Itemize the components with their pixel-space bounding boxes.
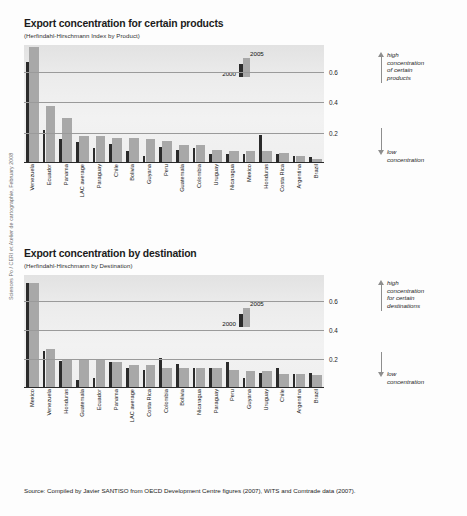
x-label-slot: Mexico <box>24 387 41 439</box>
annotation-high-destination: high concentration for certain destinati… <box>378 280 464 309</box>
x-axis-category-label: Bolivia <box>129 164 135 181</box>
chart-title: Export concentration by destination <box>24 248 324 259</box>
x-label-slot: Costa Rica <box>141 387 158 439</box>
x-axis-labels: MexicoVenezuelaHondurasGuatemalaEcuadorP… <box>24 387 324 439</box>
bar-2005 <box>129 365 139 387</box>
x-label-slot: Guatemala <box>174 162 191 214</box>
y-axis-tick-label: 0.6 <box>329 69 338 76</box>
x-label-slot: Guyana <box>141 162 158 214</box>
x-label-slot: Brazil <box>307 162 324 214</box>
x-axis-category-label: Chile <box>113 164 119 177</box>
x-axis-category-label: Peru <box>229 389 235 401</box>
x-axis-category-label: Panama <box>113 389 119 410</box>
bar-2000 <box>309 373 312 387</box>
bar-2005 <box>196 368 206 387</box>
x-axis-category-label: LAC average <box>129 389 135 422</box>
bar-group <box>174 45 191 162</box>
annotation-high-text: high concentration of certain products <box>387 51 464 81</box>
bar-2005 <box>162 368 172 387</box>
bar-2000 <box>109 362 112 387</box>
bar-2000 <box>93 378 96 387</box>
x-axis-category-label: Argentina <box>296 389 302 413</box>
x-label-slot: Colombia <box>191 162 208 214</box>
annotation-low-text: low concentration <box>387 370 464 385</box>
bar-2005 <box>279 374 289 387</box>
bar-group <box>107 45 124 162</box>
x-label-slot: Ecuador <box>41 162 58 214</box>
x-axis-category-label: Argentina <box>296 164 302 188</box>
annotation-low-destination: low concentration <box>378 352 464 385</box>
x-axis-category-label: Venezuela <box>29 164 35 191</box>
x-label-slot: Paraguay <box>91 162 108 214</box>
x-axis-category-label: LAC average <box>79 164 85 197</box>
gridline <box>24 102 324 103</box>
x-label-slot: Bolivia <box>174 387 191 439</box>
bar-group <box>57 45 74 162</box>
bar-2000 <box>159 358 162 387</box>
x-label-slot: Nicaragua <box>191 387 208 439</box>
annotation-high-products: high concentration of certain products <box>378 52 464 81</box>
bar-group <box>274 45 291 162</box>
bar-2000 <box>226 362 229 387</box>
bar-2005 <box>46 106 56 162</box>
bar-2005 <box>46 349 56 387</box>
bar-2005 <box>212 368 222 387</box>
x-axis-category-label: Costa Rica <box>279 164 285 192</box>
x-axis-category-label: Costa Rica <box>146 389 152 417</box>
bar-2000 <box>59 361 62 387</box>
bar-2005 <box>246 371 256 387</box>
bar-2000 <box>176 364 179 387</box>
bar-2000 <box>276 154 279 162</box>
gridline <box>24 359 324 360</box>
x-label-slot: Peru <box>224 387 241 439</box>
bar-2000 <box>226 154 229 162</box>
x-label-slot: Uruguay <box>257 387 274 439</box>
chart-subtitle: (Herfindahl-Hirschmann by Destination) <box>24 262 324 269</box>
x-axis-category-label: Guyana <box>146 164 152 184</box>
x-axis-category-label: Panama <box>63 164 69 185</box>
plot-area: 2000 2005 MexicoVenezuelaHondurasGuatema… <box>24 275 324 388</box>
gridline <box>24 301 324 302</box>
bar-group <box>191 45 208 162</box>
x-label-slot: Ecuador <box>91 387 108 439</box>
bar-group <box>91 45 108 162</box>
bar-2005 <box>146 365 156 387</box>
figure-page: Sciences Po / CERI et Atelier de cartogr… <box>0 0 467 516</box>
bar-group <box>224 45 241 162</box>
x-axis-category-label: Guatemala <box>79 389 85 417</box>
x-label-slot: Guatemala <box>74 387 91 439</box>
bar-2005 <box>29 47 39 162</box>
bar-2005 <box>112 138 122 162</box>
bar-2005 <box>296 374 306 387</box>
chart-block-destination: Export concentration by destination (Her… <box>24 248 324 388</box>
bar-2005 <box>79 359 89 387</box>
x-label-slot: Brazil <box>307 387 324 439</box>
y-axis-tick-label: 0.4 <box>329 99 338 106</box>
x-label-slot: Honduras <box>57 387 74 439</box>
bar-2005 <box>179 368 189 387</box>
chart-subtitle: (Herfindahl-Hirschmann Index by Product) <box>24 32 324 39</box>
bar-2000 <box>276 368 279 387</box>
x-axis-category-label: Paraguay <box>213 389 219 413</box>
source-note: Source: Compiled by Javier SANTISO from … <box>24 487 444 494</box>
x-axis-category-label: Guatemala <box>179 164 185 192</box>
bar-2005 <box>279 153 289 162</box>
x-label-slot: Chile <box>274 387 291 439</box>
bar-2005 <box>229 370 239 387</box>
x-label-slot: Paraguay <box>207 387 224 439</box>
bar-2000 <box>193 148 196 162</box>
bar-2000 <box>26 62 29 162</box>
bar-2000 <box>209 154 212 162</box>
bar-2005 <box>246 151 256 162</box>
bar-2000 <box>109 144 112 162</box>
bar-2000 <box>176 150 179 162</box>
x-axis-category-label: Paraguay <box>96 164 102 188</box>
gridline <box>24 72 324 73</box>
chart-block-products: Export concentration for certain product… <box>24 18 324 163</box>
bar-2000 <box>26 283 29 387</box>
plot-area: 2000 2005 VenezuelaEcuadorPanamaLAC aver… <box>24 45 324 163</box>
x-label-slot: Colombia <box>157 387 174 439</box>
x-label-slot: Chile <box>107 162 124 214</box>
x-axis-category-label: Colombia <box>196 164 202 188</box>
bar-2000 <box>259 373 262 387</box>
